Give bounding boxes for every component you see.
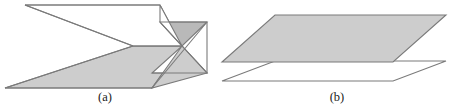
white-plane-main-body: [25, 5, 182, 46]
panel-b-parallel-planes: [222, 15, 446, 81]
caption-b: (b): [222, 90, 452, 105]
lower-white-plane: [222, 61, 446, 81]
upper-gray-plane: [222, 15, 446, 62]
gray-plane-main-body: [5, 46, 182, 88]
panel-a-intersecting-planes: [5, 5, 207, 88]
planes-figure: (a) (b): [0, 0, 453, 111]
caption-a: (a): [0, 90, 210, 105]
